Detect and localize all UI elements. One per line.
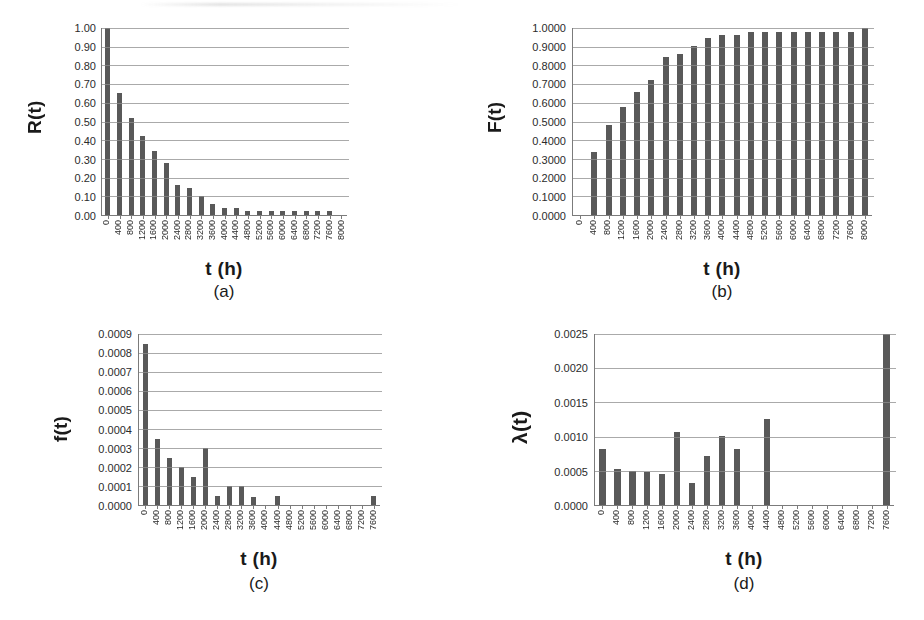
x-tick-label: 2000 — [672, 510, 681, 530]
x-tick-label: 6400 — [290, 220, 299, 240]
bar — [663, 57, 669, 215]
x-tick-label: 5200 — [760, 220, 769, 240]
bar-slot — [789, 334, 804, 505]
bar-slot — [879, 334, 894, 505]
y-tick-label: 0.0002 — [98, 462, 132, 473]
bar-slot — [356, 334, 368, 505]
chart-panel-d: λ(t) 0.00250.00200.00150.00100.00050.000… — [462, 310, 924, 620]
bar — [210, 204, 215, 215]
x-tick-mark — [842, 505, 843, 509]
x-tick-mark — [836, 215, 837, 219]
bar-slot — [700, 334, 715, 505]
bar-slot — [864, 334, 879, 505]
y-tick-label: 0.0007 — [98, 367, 132, 378]
x-tick-mark — [290, 505, 291, 509]
bar — [764, 419, 770, 505]
x-tick-mark — [341, 215, 342, 219]
bar-slot — [223, 334, 235, 505]
x-tick-label: 400 — [589, 220, 598, 235]
chart-panel-a: R(t) 1.000.900.800.700.600.500.400.300.2… — [0, 0, 462, 310]
x-tick-label: 4000 — [717, 220, 726, 240]
gridline — [102, 103, 349, 104]
x-tick-mark — [302, 505, 303, 509]
x-tick-label: 5600 — [309, 510, 318, 530]
x-tick-mark — [295, 215, 296, 219]
gridline — [573, 122, 874, 123]
bar-slot — [730, 334, 745, 505]
bar-slot — [595, 334, 610, 505]
bar — [648, 80, 654, 215]
x-tick-mark — [782, 505, 783, 509]
x-tick-mark — [265, 505, 266, 509]
bar — [748, 32, 754, 215]
bar — [629, 471, 635, 505]
y-tick-label: 0.40 — [75, 135, 96, 146]
y-axis-ticks-d: 0.00250.00200.00150.00100.00050.0000 — [522, 334, 588, 506]
bar — [227, 486, 232, 505]
x-tick-slot: 3600 — [206, 220, 218, 260]
x-tick-slot: 6400 — [834, 510, 849, 550]
gridline — [102, 122, 349, 123]
x-tick-slot: 1600 — [629, 220, 643, 260]
x-tick-label: 3200 — [689, 220, 698, 240]
x-tick-slot: 400 — [150, 510, 162, 550]
y-axis-ticks-c: 0.00090.00080.00070.00060.00050.00040.00… — [66, 334, 132, 506]
y-tick-label: 0.7000 — [532, 79, 566, 90]
x-tick-mark — [169, 505, 170, 509]
bar-slot — [308, 334, 320, 505]
bar — [175, 185, 180, 215]
x-tick-mark — [707, 505, 708, 509]
x-tick-label: 7200 — [832, 220, 841, 240]
x-tick-slot: 3600 — [247, 510, 259, 550]
gridline — [102, 84, 349, 85]
bar — [606, 125, 612, 215]
x-tick-mark — [722, 505, 723, 509]
x-tick-mark — [181, 505, 182, 509]
x-tick-mark — [201, 215, 202, 219]
bar-slot — [211, 334, 223, 505]
x-tick-slot: 2800 — [223, 510, 235, 550]
x-tick-mark — [666, 215, 667, 219]
x-tick-mark — [637, 215, 638, 219]
bar — [659, 474, 665, 505]
bar-slot — [774, 334, 789, 505]
x-tick-slot: 8000 — [335, 220, 347, 260]
x-tick-mark — [647, 505, 648, 509]
bar-series-d — [595, 334, 894, 505]
x-tick-slot: 1600 — [654, 510, 669, 550]
y-tick-label: 0.0000 — [532, 211, 566, 222]
panel-caption-c: (c) — [138, 574, 380, 594]
x-tick-mark — [617, 505, 618, 509]
bar-slot — [368, 334, 380, 505]
bar — [187, 188, 192, 215]
x-tick-slot: 2400 — [684, 510, 699, 550]
x-tick-mark — [236, 215, 237, 219]
x-tick-mark — [374, 505, 375, 509]
x-tick-mark — [851, 215, 852, 219]
x-tick-mark — [822, 215, 823, 219]
y-tick-label: 0.4000 — [532, 135, 566, 146]
x-axis-ticks-c: 0400800120016002000240028003200360040004… — [138, 510, 380, 550]
x-tick-slot: 2000 — [643, 220, 657, 260]
bar-slot — [715, 334, 730, 505]
x-tick-slot: 7600 — [879, 510, 894, 550]
bar-slot — [640, 334, 655, 505]
x-tick-slot: 800 — [162, 510, 174, 550]
bar — [275, 496, 280, 505]
bar-slot — [139, 334, 151, 505]
x-tick-slot: 6400 — [289, 220, 301, 260]
x-tick-label: 2800 — [675, 220, 684, 240]
chart-panel-b: F(t) 1.00000.90000.80000.70000.60000.500… — [462, 0, 924, 310]
y-tick-label: 0.1000 — [532, 192, 566, 203]
bar-slot — [187, 334, 199, 505]
y-tick-label: 0.80 — [75, 60, 96, 71]
gridline — [573, 178, 874, 179]
x-tick-mark — [872, 505, 873, 509]
x-tick-label: 6000 — [822, 510, 831, 530]
x-tick-label: 6400 — [803, 220, 812, 240]
x-tick-label: 1600 — [632, 220, 641, 240]
gridline — [139, 372, 382, 373]
x-tick-label: 2400 — [687, 510, 696, 530]
x-tick-slot: 400 — [609, 510, 624, 550]
bar — [239, 486, 244, 505]
